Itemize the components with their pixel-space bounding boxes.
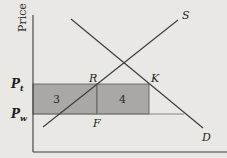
area-4-label: 4	[119, 93, 126, 106]
y-axis-title: Price	[16, 3, 29, 32]
point-f-label: F	[92, 117, 101, 130]
pw-label: Pw	[10, 107, 28, 123]
point-r-label: R	[88, 72, 97, 85]
area-3-label: 3	[53, 93, 60, 106]
tariff-diagram: Price Pt Pw S D R K F 3 4	[0, 0, 227, 158]
demand-label: D	[201, 131, 211, 144]
point-k-label: K	[150, 72, 160, 85]
supply-label: S	[182, 9, 190, 22]
pt-label: Pt	[10, 77, 24, 93]
